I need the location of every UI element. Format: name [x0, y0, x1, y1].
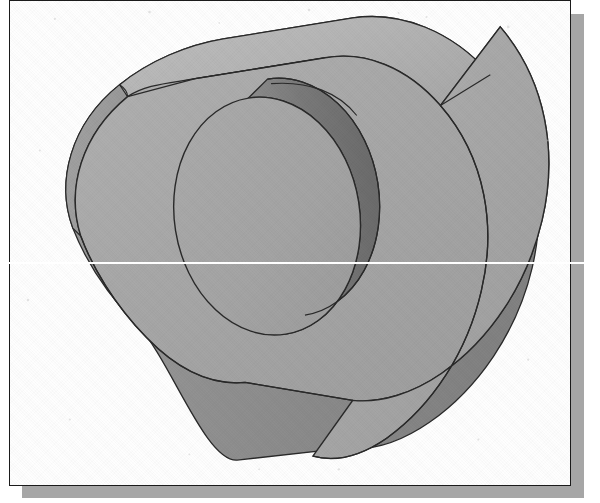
cad-isometric-drawing	[10, 1, 570, 485]
scanline-artifact	[0, 262, 600, 264]
image-frame	[9, 0, 571, 486]
cad-viewport[interactable]	[10, 1, 570, 485]
screenshot-canvas	[0, 0, 600, 503]
